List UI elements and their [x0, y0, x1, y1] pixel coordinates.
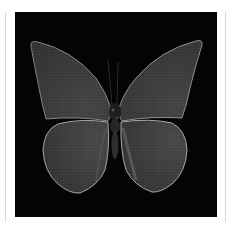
left-hindwing [43, 120, 109, 193]
butterfly-illustration [0, 0, 229, 229]
left-forewing [31, 42, 111, 122]
antennae [108, 60, 118, 105]
right-forewing [119, 41, 202, 122]
butterfly-body [109, 103, 121, 159]
right-hindwing [121, 120, 187, 192]
